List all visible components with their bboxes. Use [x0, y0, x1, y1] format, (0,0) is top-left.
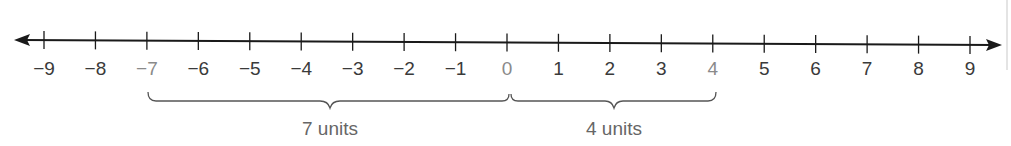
tick-label: −4: [281, 58, 321, 80]
tick-label: 8: [899, 58, 939, 80]
tick-label: 1: [538, 58, 578, 80]
tick-label: 4: [693, 58, 733, 80]
divider: [1006, 0, 1008, 70]
tick-label: 6: [796, 58, 836, 80]
tick-label: 2: [590, 58, 630, 80]
brace-label-7-units: 7 units: [270, 118, 390, 140]
axis-line: [14, 34, 1002, 51]
tick-marks: [44, 31, 970, 54]
tick-label: −1: [436, 58, 476, 80]
brace-label-4-units: 4 units: [554, 118, 674, 140]
tick-label: −9: [24, 58, 64, 80]
tick-label: −5: [230, 58, 270, 80]
brace-4-units: [511, 92, 716, 108]
tick-label: 9: [950, 58, 990, 80]
tick-label: 7: [847, 58, 887, 80]
number-line-diagram: −9−8−7−6−5−4−3−2−10123456789 7 units 4 u…: [0, 0, 1011, 146]
brace-7-units: [148, 92, 509, 108]
tick-label: −2: [384, 58, 424, 80]
tick-label: −3: [333, 58, 373, 80]
tick-label: −7: [127, 58, 167, 80]
tick-label: 5: [744, 58, 784, 80]
tick-label: −6: [178, 58, 218, 80]
tick-label: 0: [487, 58, 527, 80]
tick-label: −8: [75, 58, 115, 80]
tick-label: 3: [641, 58, 681, 80]
